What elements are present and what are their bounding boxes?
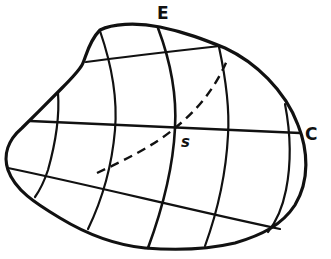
horizontal-curve-c <box>30 121 300 133</box>
vertical-curve-e <box>148 28 175 248</box>
horizontal-curve-bottom <box>8 168 280 229</box>
vertical-curve-5 <box>268 104 290 232</box>
vertical-curve-1 <box>35 93 58 197</box>
label-e: E <box>157 5 169 22</box>
label-s: s <box>181 135 190 150</box>
label-c: C <box>305 126 317 143</box>
coordinate-grid-diagram <box>0 0 331 259</box>
region-outline <box>6 24 306 249</box>
